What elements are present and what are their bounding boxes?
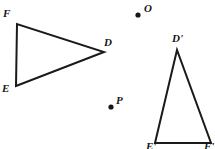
vertex-label-e: E [2,83,9,94]
vertex-label-d: D [104,37,112,48]
triangle-def-outline [16,24,104,86]
vertex-label-f: F [3,8,10,19]
geometry-figure: D E F D' E' F' O P [0,0,215,149]
point-p-dot [108,104,113,109]
triangle-def-prime-outline [155,50,211,143]
geometry-canvas [0,0,215,149]
point-label-o: O [144,3,152,14]
vertex-label-f-prime: F' [204,141,214,149]
vertex-label-e-prime: E' [146,141,156,149]
point-label-p: P [116,95,123,106]
vertex-label-d-prime: D' [172,33,183,44]
point-o-dot [135,12,140,17]
